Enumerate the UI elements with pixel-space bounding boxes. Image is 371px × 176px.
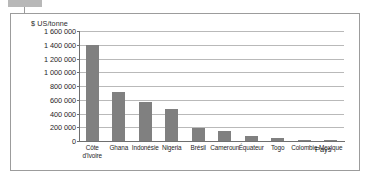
bar <box>192 128 205 141</box>
y-tick-label: 1 400 000 <box>44 40 76 49</box>
x-tick-label: Togo <box>271 144 284 152</box>
y-tick-label: 0 <box>72 137 76 146</box>
y-tick-label: 400 000 <box>50 109 76 118</box>
y-axis-tick-labels: 0200 000400 000600 000800 0001 000 0001 … <box>23 31 76 141</box>
x-tick-label: Ghana <box>109 144 128 152</box>
bar-chart: $ US/tonne 0200 000400 000600 000800 000… <box>11 14 359 170</box>
x-tick-label: Nigeria <box>162 144 182 152</box>
x-tick-label: Colombie <box>291 144 317 152</box>
bar <box>86 45 99 141</box>
x-tick-label: Indonésie <box>132 144 159 152</box>
y-tick-label: 200 000 <box>50 123 76 132</box>
x-axis-title: Pays <box>315 145 331 154</box>
x-axis-line <box>79 141 345 142</box>
y-tick-label: 800 000 <box>50 82 76 91</box>
bar <box>271 138 284 141</box>
y-tick-label: 1 200 000 <box>44 54 76 63</box>
y-tick-label: 1 600 000 <box>44 27 76 36</box>
bar <box>324 140 337 141</box>
bar-series <box>79 31 345 141</box>
y-tick-label: 600 000 <box>50 95 76 104</box>
y-tick-label: 1 000 000 <box>44 68 76 77</box>
x-tick-label: Cameroun <box>210 144 239 152</box>
top-edge-artifact <box>8 0 42 7</box>
bar <box>139 102 152 141</box>
x-tick-label: Équateur <box>239 144 264 152</box>
bar <box>165 109 178 141</box>
chart-figure-frame: $ US/tonne 0200 000400 000600 000800 000… <box>10 13 360 171</box>
x-tick-label: Côte d'Ivoire <box>82 144 102 159</box>
x-tick-label: Brésil <box>191 144 206 152</box>
bar <box>298 140 311 141</box>
bar <box>218 131 231 141</box>
x-axis-category-labels: Côte d'IvoireGhanaIndonésieNigeriaBrésil… <box>79 144 345 170</box>
bar <box>112 92 125 142</box>
bar <box>245 136 258 141</box>
